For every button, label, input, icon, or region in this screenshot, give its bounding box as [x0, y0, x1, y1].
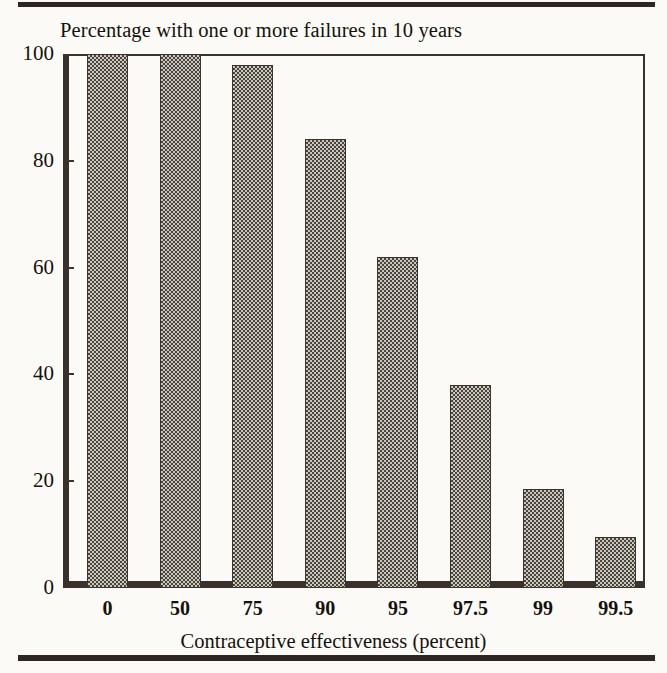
y-tick-label: 80	[8, 150, 54, 171]
y-tick-mark	[63, 160, 74, 162]
bar	[232, 65, 273, 588]
bottom-rule	[18, 655, 655, 661]
y-tick-label: 0	[8, 577, 54, 598]
figure-page: Percentage with one or more failures in …	[0, 0, 667, 673]
bar	[377, 257, 418, 588]
x-tick-label: 99	[533, 598, 553, 618]
y-tick-label: 60	[8, 257, 54, 278]
top-rule	[18, 2, 655, 7]
bar	[450, 385, 491, 588]
x-tick-label: 99.5	[598, 598, 633, 618]
x-tick-label: 97.5	[453, 598, 488, 618]
y-tick-label: 20	[8, 470, 54, 491]
x-axis-title: Contraceptive effectiveness (percent)	[0, 630, 667, 653]
y-tick-mark	[63, 373, 74, 375]
bar	[595, 537, 636, 588]
bar	[305, 139, 346, 588]
bar	[523, 489, 564, 588]
x-tick-label: 50	[170, 598, 190, 618]
y-tick-label: 100	[8, 43, 54, 64]
y-tick-mark	[63, 267, 74, 269]
plot-area	[63, 54, 645, 588]
x-tick-label: 75	[243, 598, 263, 618]
y-tick-mark	[63, 480, 74, 482]
chart-title: Percentage with one or more failures in …	[60, 19, 462, 42]
x-tick-label: 0	[103, 598, 113, 618]
x-tick-label: 90	[315, 598, 335, 618]
bar	[160, 54, 201, 588]
x-tick-label: 95	[388, 598, 408, 618]
y-tick-label: 40	[8, 363, 54, 384]
bar	[87, 54, 128, 588]
